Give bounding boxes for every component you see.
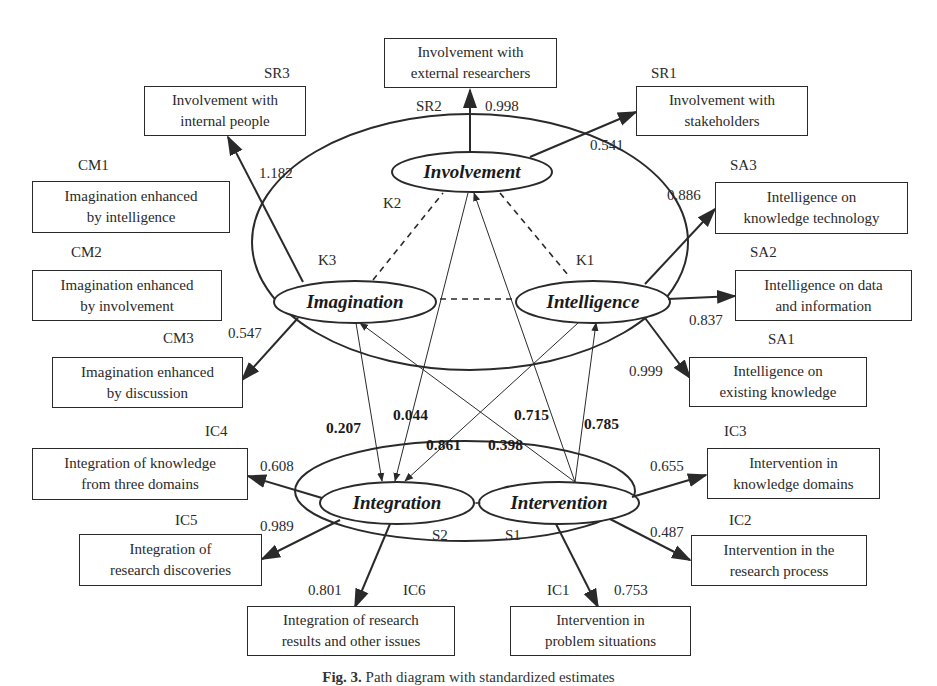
indicator-box-sr3[interactable]: Involvement withinternal people xyxy=(144,86,306,136)
indicator-box-ic2[interactable]: Intervention in theresearch process xyxy=(691,535,867,586)
path-estimate-intervention-imagination: 0.398 xyxy=(488,437,523,453)
loading-sr2: 0.998 xyxy=(485,98,519,114)
latent-imagination[interactable]: Imagination xyxy=(274,290,436,314)
indicator-sa3-line2: knowledge technology xyxy=(743,208,879,229)
indicator-sr3-line2: internal people xyxy=(172,111,278,132)
loading-sa2: 0.837 xyxy=(689,312,723,328)
figure-caption-label: Fig. 3. xyxy=(322,669,362,685)
indicator-cm2-line2: by involvement xyxy=(61,296,194,317)
indicator-box-sr1[interactable]: Involvement withstakeholders xyxy=(636,86,808,136)
indicator-cm3-line2: by discussion xyxy=(81,383,214,404)
loading-sa1: 0.999 xyxy=(629,363,663,379)
loading-ic1: 0.753 xyxy=(614,582,648,598)
path-intervention-to-imagination xyxy=(360,323,575,482)
path-estimate-intervention-involvement: 0.715 xyxy=(514,407,549,423)
loading-arrow-ic6 xyxy=(355,524,390,607)
group-label-k1: K1 xyxy=(576,252,594,268)
indicator-box-sa3[interactable]: Intelligence onknowledge technology xyxy=(715,182,908,234)
indicator-code-ic6: IC6 xyxy=(403,582,426,598)
indicator-code-ic4: IC4 xyxy=(205,423,228,439)
loading-arrow-sa3 xyxy=(645,209,715,284)
indicator-code-cm3: CM3 xyxy=(163,330,194,346)
indicator-box-sa2[interactable]: Intelligence on dataand information xyxy=(735,270,912,321)
indicator-box-ic1[interactable]: Intervention inproblem situations xyxy=(510,606,691,656)
indicator-code-sa1: SA1 xyxy=(768,331,795,347)
indicator-ic5-line1: Integration of xyxy=(110,539,231,560)
indicator-ic3-line1: Intervention in xyxy=(733,453,853,474)
indicator-code-cm2: CM2 xyxy=(71,244,102,260)
latent-intelligence-label: Intelligence xyxy=(547,291,640,313)
figure-caption-text: Path diagram with standardized estimates xyxy=(366,669,615,685)
loading-ic5: 0.989 xyxy=(260,518,294,534)
indicator-ic6-line2: results and other issues xyxy=(282,631,421,652)
indicator-code-sa2: SA2 xyxy=(750,244,777,260)
latent-involvement-label: Involvement xyxy=(423,161,520,183)
latent-integration-label: Integration xyxy=(353,492,442,514)
indicator-cm2-line1: Imagination enhanced xyxy=(61,275,194,296)
indicator-box-ic5[interactable]: Integration ofresearch discoveries xyxy=(79,534,262,586)
latent-integration[interactable]: Integration xyxy=(320,491,474,515)
loading-sa3: 0.886 xyxy=(667,187,701,203)
indicator-sr1-line1: Involvement with xyxy=(669,90,775,111)
latent-imagination-label: Imagination xyxy=(306,291,403,313)
indicator-cm3-line1: Imagination enhanced xyxy=(81,362,214,383)
loading-sr1: 0.541 xyxy=(590,137,624,153)
group-label-k2: K2 xyxy=(383,195,401,211)
loading-ic2: 0.487 xyxy=(650,524,684,540)
loading-arrow-ic4 xyxy=(248,476,322,498)
indicator-code-ic5: IC5 xyxy=(175,512,198,528)
indicator-sr1-line2: stakeholders xyxy=(669,111,775,132)
indicator-box-sr2[interactable]: Involvement withexternal researchers xyxy=(384,38,557,88)
loading-sr3: 1.182 xyxy=(259,165,293,181)
path-estimate-intelligence-integration: 0.861 xyxy=(426,437,461,453)
indicator-ic4-line2: from three domains xyxy=(64,474,216,495)
indicator-ic1-line2: problem situations xyxy=(545,631,656,652)
indicator-code-sa3: SA3 xyxy=(730,157,757,173)
indicator-code-sr2: SR2 xyxy=(416,98,442,114)
loading-arrow-ic3 xyxy=(632,475,706,497)
indicator-code-ic2: IC2 xyxy=(729,512,752,528)
indicator-sa1-line1: Intelligence on xyxy=(719,361,836,382)
indicator-code-sr1: SR1 xyxy=(651,65,677,81)
figure-caption: Fig. 3. Path diagram with standardized e… xyxy=(0,669,937,686)
indicator-ic5-line2: research discoveries xyxy=(110,560,231,581)
path-estimate-intervention-intelligence: 0.785 xyxy=(584,416,619,432)
indicator-sr2-line1: Involvement with xyxy=(411,42,531,63)
indicator-ic2-line1: Intervention in the xyxy=(724,540,835,561)
path-estimate-involvement-integration: 0.044 xyxy=(393,407,428,423)
group-label-k3: K3 xyxy=(318,252,336,268)
indicator-ic1-line1: Intervention in xyxy=(545,610,656,631)
indicator-box-cm3[interactable]: Imagination enhancedby discussion xyxy=(52,357,243,408)
indicator-box-sa1[interactable]: Intelligence onexisting knowledge xyxy=(689,357,867,407)
loading-ic6: 0.801 xyxy=(308,582,342,598)
indicator-cm1-line2: by intelligence xyxy=(65,207,198,228)
group-label-s2: S2 xyxy=(432,527,448,543)
indicator-code-cm1: CM1 xyxy=(78,157,109,173)
indicator-box-ic6[interactable]: Integration of researchresults and other… xyxy=(247,606,455,656)
indicator-sa3-line1: Intelligence on xyxy=(743,187,879,208)
correlation-involvement-intelligence xyxy=(500,193,568,275)
loading-cm3: 0.547 xyxy=(228,325,262,341)
indicator-code-ic1: IC1 xyxy=(547,582,570,598)
loading-arrow-sr3 xyxy=(228,137,303,282)
indicator-cm1-line1: Imagination enhanced xyxy=(65,186,198,207)
indicator-sr3-line1: Involvement with xyxy=(172,90,278,111)
indicator-ic4-line1: Integration of knowledge xyxy=(64,453,216,474)
indicator-box-cm1[interactable]: Imagination enhancedby intelligence xyxy=(32,181,230,233)
indicator-code-ic3: IC3 xyxy=(724,423,747,439)
indicator-sa2-line1: Intelligence on data xyxy=(764,275,882,296)
indicator-box-cm2[interactable]: Imagination enhancedby involvement xyxy=(32,270,222,321)
group-label-s1: S1 xyxy=(505,527,521,543)
path-intelligence-to-integration xyxy=(405,323,578,481)
loading-ic4: 0.608 xyxy=(260,458,294,474)
indicator-box-ic4[interactable]: Integration of knowledgefrom three domai… xyxy=(32,448,248,500)
indicator-sa2-line2: and information xyxy=(764,296,882,317)
path-estimate-imagination-integration: 0.207 xyxy=(326,420,361,436)
latent-intelligence[interactable]: Intelligence xyxy=(516,290,670,314)
indicator-box-ic3[interactable]: Intervention inknowledge domains xyxy=(707,448,880,499)
indicator-sa1-line2: existing knowledge xyxy=(719,382,836,403)
latent-involvement[interactable]: Involvement xyxy=(392,160,552,184)
indicator-ic3-line2: knowledge domains xyxy=(733,474,853,495)
latent-intervention[interactable]: Intervention xyxy=(479,491,639,515)
indicator-ic2-line2: research process xyxy=(724,561,835,582)
